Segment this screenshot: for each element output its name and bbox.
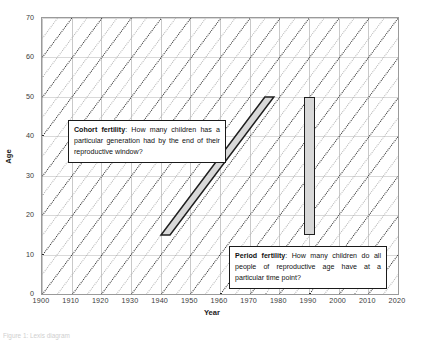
gridline-age-20: [42, 215, 398, 216]
cohort-line-1855: [42, 18, 117, 117]
gridline-age-50: [42, 97, 398, 98]
period-fertility-bar: [304, 97, 315, 235]
cohort-line-1845: [42, 18, 87, 78]
figure-caption: Figure 1: Lexis diagram: [3, 332, 233, 340]
callout-period-fertility: Period fertility: How many children do a…: [229, 246, 387, 289]
y-tick-60: 60: [6, 52, 34, 61]
y-tick-10: 10: [6, 250, 34, 259]
cohort-line-1840: [42, 18, 72, 58]
callout-cohort-lead: Cohort fertility: [74, 126, 125, 134]
y-tick-20: 20: [6, 210, 34, 219]
callout-period-lead: Period fertility: [235, 252, 285, 260]
gridline-age-30: [42, 176, 398, 177]
y-axis-title: Age: [4, 137, 13, 177]
y-tick-50: 50: [6, 92, 34, 101]
x-axis-title: Year: [0, 308, 424, 317]
y-tick-0: 0: [6, 289, 34, 298]
cohort-line-1875: [42, 18, 176, 196]
cohort-line-1835: [42, 18, 58, 38]
x-tick-2020: 2020: [377, 296, 417, 305]
y-tick-70: 70: [6, 13, 34, 22]
cohort-line-1880: [42, 18, 191, 216]
gridline-age-60: [42, 57, 398, 58]
callout-cohort-fertility: Cohort fertility: How many children has …: [68, 120, 226, 163]
gridline-year-2020: [398, 18, 399, 294]
lexis-diagram-figure: 1900191019201930194019501960197019801990…: [0, 0, 424, 342]
gridline-age-70: [42, 18, 398, 19]
gridline-year-1900: [42, 18, 43, 294]
